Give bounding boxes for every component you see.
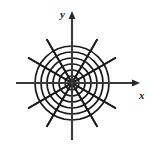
polar-grid-figure: y x	[0, 0, 152, 154]
y-axis-label: y	[60, 9, 65, 20]
polar-grid-canvas	[0, 0, 152, 154]
y-axis-arrowhead	[69, 11, 76, 19]
x-axis-label: x	[139, 90, 145, 101]
x-axis-arrowhead	[132, 80, 140, 87]
axes-group	[16, 11, 140, 140]
